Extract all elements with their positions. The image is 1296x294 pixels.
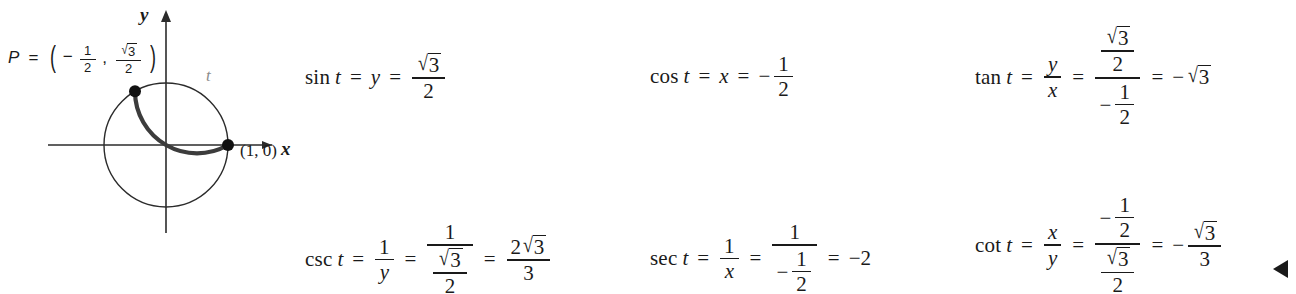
formula-sin: sin t = y = √3 2 — [305, 52, 447, 103]
cot-result-negative-sign: − — [1172, 233, 1184, 258]
sqrt-icon: √3 — [521, 235, 546, 258]
point-p-x-numerator: 1 — [80, 43, 95, 59]
csc-compound-fraction: 1 √3 2 — [427, 220, 472, 294]
tan-equals-2: = — [1072, 65, 1084, 90]
point-1-0-label: (1, 0) — [240, 141, 277, 161]
csc-equals-2: = — [405, 247, 417, 272]
tan-compound-numerator: √3 2 — [1095, 24, 1140, 77]
cos-result-denominator: 2 — [774, 77, 793, 101]
csc-result-fraction: 2 √3 3 — [507, 234, 551, 285]
cos-negative-sign: − — [758, 64, 770, 89]
csc-compound-denominator: √3 2 — [427, 246, 472, 294]
radicand: 3 — [533, 235, 547, 258]
cot-lower-fraction: √3 2 — [1101, 246, 1134, 294]
csc-result-numerator: 2 √3 — [507, 234, 551, 259]
tan-equals-1: = — [1021, 65, 1033, 90]
tan-ratio-fraction: y x — [1044, 52, 1061, 101]
sec-compound-fraction: 1 − 1 2 — [772, 220, 816, 294]
sqrt-icon: √3 — [1186, 65, 1211, 88]
csc-equals-1: = — [352, 247, 364, 272]
cot-result-numerator: √3 — [1188, 220, 1221, 245]
csc-lower-fraction: √3 2 — [433, 247, 466, 294]
cot-variable-t: t — [1006, 233, 1012, 258]
sin-result-fraction: √3 2 — [412, 52, 445, 103]
arc-angle-label-t: t — [206, 66, 211, 86]
point-p-y-denominator: 2 — [121, 61, 136, 77]
formula-cos: cos t = x = − 1 2 — [650, 52, 795, 101]
sin-coordinate: y — [371, 65, 380, 90]
csc-variable-t: t — [337, 247, 343, 272]
sec-lower-fraction: 1 2 — [792, 247, 811, 294]
radicand: 3 — [428, 53, 442, 76]
cos-function-name: cos — [650, 64, 679, 89]
x-axis-label: x — [281, 138, 291, 160]
cos-equals-2: = — [738, 64, 750, 89]
sec-lower-negative-sign: − — [776, 261, 788, 283]
sin-result-numerator: √3 — [412, 52, 445, 77]
sec-compound-numerator: 1 — [785, 220, 804, 244]
y-axis-arrowhead — [161, 10, 171, 22]
csc-compound-numerator: 1 — [441, 220, 460, 244]
cot-compound-denominator: √3 2 — [1095, 245, 1140, 294]
point-1-0-dot — [222, 139, 234, 151]
tan-function-name: tan — [975, 65, 1001, 90]
sec-compound-denominator: − 1 2 — [772, 246, 816, 294]
sqrt-icon: √3 — [416, 53, 441, 76]
csc-ratio-numerator: 1 — [375, 235, 394, 259]
tan-upper-fraction: √3 2 — [1101, 25, 1134, 76]
cos-equals-1: = — [698, 64, 710, 89]
point-p-y-fraction: √3 2 — [116, 42, 142, 76]
tan-upper-numerator: √3 — [1101, 25, 1134, 50]
radical-sign: √ — [1107, 247, 1117, 268]
cot-equals-3: = — [1151, 233, 1163, 258]
sqrt-icon: √3 — [1105, 26, 1130, 49]
formula-csc: csc t = 1 y = 1 √3 2 = 2 √3 — [305, 220, 552, 294]
sin-result-denominator: 2 — [419, 79, 438, 103]
cos-variable-t: t — [684, 64, 690, 89]
cot-lower-numerator: √3 — [1101, 246, 1134, 271]
sec-ratio-denominator: x — [721, 259, 738, 283]
formula-tan: tan t = y x = √3 2 − 1 2 — [975, 24, 1211, 130]
point-p-y-numerator: √3 — [116, 42, 142, 59]
radical-sign: √ — [418, 53, 428, 74]
cos-result-fraction: 1 2 — [774, 52, 793, 101]
cot-equals-1: = — [1021, 233, 1033, 258]
formula-sec: sec t = 1 x = 1 − 1 2 = −2 — [650, 220, 871, 294]
csc-lower-denominator: 2 — [441, 274, 460, 294]
tan-lower-negative-sign: − — [1100, 94, 1112, 116]
point-p-dot — [129, 85, 141, 97]
tan-compound-fraction: √3 2 − 1 2 — [1095, 24, 1140, 130]
point-p-equals: = — [28, 48, 38, 67]
point-p-x-denominator: 2 — [80, 60, 95, 76]
unit-circle-figure: P = ( − 1 2 , √3 2 ) (1, 0) y x t — [0, 0, 290, 294]
radicand: 3 — [1117, 26, 1131, 49]
tan-result-negative-sign: − — [1172, 65, 1184, 90]
point-p-comma: , — [102, 48, 107, 67]
csc-lower-numerator: √3 — [433, 247, 466, 272]
cot-lower-denominator: 2 — [1109, 273, 1128, 294]
cot-ratio-fraction: x y — [1044, 220, 1061, 269]
cot-compound-fraction: − 1 2 √3 2 — [1095, 192, 1140, 294]
point-p-label: P = ( − 1 2 , √3 2 ) — [8, 36, 158, 76]
tan-lower-numerator: 1 — [1115, 80, 1134, 104]
sec-variable-t: t — [682, 246, 688, 271]
tan-upper-denominator: 2 — [1109, 52, 1128, 76]
sqrt-icon: √3 — [1105, 247, 1130, 270]
sec-equals-3: = — [828, 246, 840, 271]
page-section-marker-triangle-icon — [1273, 260, 1288, 278]
radical-sign: √ — [121, 43, 127, 56]
y-axis-label: y — [140, 4, 148, 26]
point-p-x-sign: − — [63, 47, 73, 66]
radical-sign: √ — [1188, 65, 1198, 86]
csc-result-denominator: 3 — [519, 261, 538, 285]
point-p-x-fraction: 1 2 — [80, 43, 96, 76]
point-p-open-paren: ( — [50, 40, 56, 74]
tan-ratio-numerator: y — [1044, 52, 1061, 76]
cot-function-name: cot — [975, 233, 1001, 258]
cot-upper-numerator: 1 — [1115, 193, 1134, 217]
sec-equals-2: = — [750, 246, 762, 271]
csc-function-name: csc — [305, 247, 332, 272]
sec-function-name: sec — [650, 246, 677, 271]
cot-compound-numerator: − 1 2 — [1096, 192, 1140, 243]
radicand: 3 — [1204, 221, 1218, 244]
